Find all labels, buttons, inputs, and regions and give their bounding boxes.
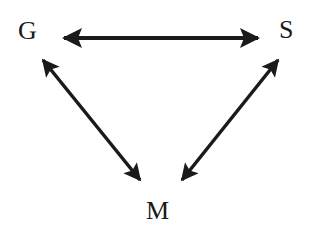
triangle-diagram: G S M [0, 0, 312, 233]
node-m: M [146, 196, 169, 225]
node-s: S [279, 15, 293, 44]
node-g: G [18, 16, 37, 45]
edge-g-m [43, 60, 140, 180]
edge-s-m [182, 60, 278, 180]
